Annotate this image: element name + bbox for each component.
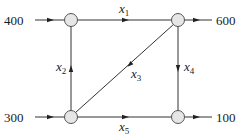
edge-x4: x4 (176, 26, 195, 111)
flow-network-diagram: 400 300 600 100 x1 x2 x3 (0, 0, 249, 137)
arrow-up-icon (69, 65, 73, 72)
output-value-100: 100 (216, 110, 236, 125)
edge-label-x2: x2 (55, 59, 66, 76)
edge-x2: x2 (55, 26, 73, 111)
arrow-right-icon (193, 115, 200, 119)
input-flow-bottom-left: 300 (4, 110, 65, 125)
node-top-right (172, 14, 185, 27)
input-flow-top-left: 400 (4, 13, 65, 28)
arrow-down-icon (176, 65, 180, 72)
node-bottom-left (65, 111, 78, 124)
edge-x5: x5 (77, 115, 172, 136)
input-value-400: 400 (4, 13, 24, 28)
arrow-right-icon (193, 18, 200, 22)
edge-label-x1: x1 (118, 1, 129, 18)
edge-x1: x1 (77, 1, 172, 22)
edge-label-x3: x3 (130, 66, 142, 83)
edge-label-x5: x5 (118, 119, 130, 136)
arrow-right-icon (47, 115, 54, 119)
arrow-right-icon (47, 18, 54, 22)
input-value-300: 300 (4, 110, 24, 125)
output-value-600: 600 (216, 13, 236, 28)
arrow-right-icon (122, 18, 129, 22)
node-top-left (65, 14, 78, 27)
node-bottom-right (172, 111, 185, 124)
edge-x3: x3 (75, 24, 174, 113)
output-flow-bottom-right: 100 (184, 110, 236, 125)
output-flow-top-right: 600 (184, 13, 236, 28)
edge-label-x4: x4 (183, 59, 195, 76)
